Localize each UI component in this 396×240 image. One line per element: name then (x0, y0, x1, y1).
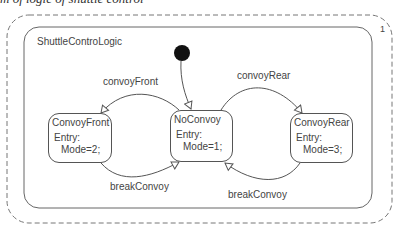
state-entry-label: Entry: (296, 132, 352, 144)
state-entry-action: Mode=2; (61, 144, 111, 156)
state-name: ConvoyRear (294, 117, 352, 129)
state-name: ConvoyFront (52, 117, 111, 129)
transition-convoyrear (221, 88, 302, 113)
state-entry-label: Entry: (176, 129, 232, 141)
transition-breakconvoy-rear (225, 163, 300, 180)
transition-breakconvoy-front (101, 162, 179, 177)
region-multiplicity: 1 (380, 24, 385, 34)
transition-label-convoyrear: convoyRear (237, 70, 290, 81)
state-entry-action: Mode=1; (183, 141, 232, 153)
state-entry-label: Entry: (54, 132, 111, 144)
state-no-convoy[interactable]: NoConvoy Entry: Mode=1; (170, 110, 233, 162)
statemachine-name: ShuttleControLogic (37, 36, 122, 47)
state-convoy-rear[interactable]: ConvoyRear Entry: Mode=3; (290, 113, 353, 163)
transition-label-convoyfront: convoyFront (103, 76, 158, 87)
initial-transition (181, 61, 191, 109)
state-entry-action: Mode=3; (303, 144, 352, 156)
transition-convoyfront (101, 94, 179, 113)
transition-label-breakconvoy-front: breakConvoy (110, 181, 169, 192)
state-name: NoConvoy (174, 114, 232, 126)
initial-node-icon (174, 45, 190, 61)
state-convoy-front[interactable]: ConvoyFront Entry: Mode=2; (48, 113, 112, 163)
transition-label-breakconvoy-rear: breakConvoy (228, 189, 287, 200)
